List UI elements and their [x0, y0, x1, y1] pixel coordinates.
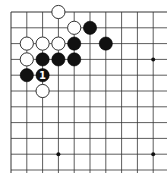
black-stone[interactable] — [36, 53, 49, 66]
black-stone[interactable]: 1 — [36, 69, 49, 82]
stones-layer: 1 — [20, 5, 112, 97]
white-stone[interactable] — [20, 37, 33, 50]
white-stone[interactable] — [36, 84, 49, 97]
black-stone[interactable] — [68, 37, 81, 50]
black-stone[interactable] — [68, 53, 81, 66]
star-point — [56, 152, 60, 156]
white-stone[interactable] — [36, 37, 49, 50]
black-stone[interactable] — [99, 37, 112, 50]
go-board[interactable]: 1 — [0, 0, 167, 173]
white-stone[interactable] — [68, 21, 81, 34]
move-number-label: 1 — [39, 70, 46, 81]
black-stone[interactable] — [20, 69, 33, 82]
black-stone[interactable] — [52, 53, 65, 66]
white-stone[interactable] — [52, 5, 65, 18]
white-stone[interactable] — [20, 53, 33, 66]
white-stone[interactable] — [52, 37, 65, 50]
star-point — [151, 152, 155, 156]
board-grid — [11, 12, 167, 173]
black-stone[interactable] — [83, 21, 96, 34]
star-point — [151, 57, 155, 61]
